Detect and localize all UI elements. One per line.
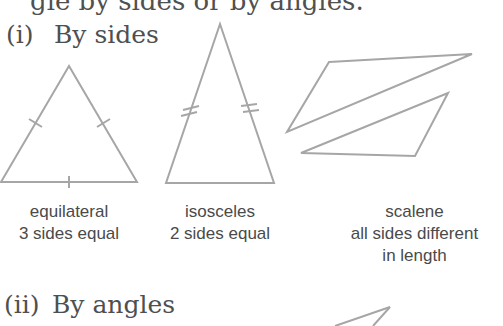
partial-triangle-by-angles — [335, 307, 390, 326]
scalene-triangles — [287, 54, 472, 156]
section-number: (ii) — [4, 290, 52, 319]
caption-description: 2 sides equal — [154, 223, 286, 245]
caption-description: all sides different — [326, 223, 503, 245]
caption-isosceles: isosceles 2 sides equal — [154, 201, 286, 245]
section-title: By angles — [52, 290, 175, 319]
isosceles-triangle — [166, 24, 274, 183]
caption-name: isosceles — [154, 201, 286, 223]
caption-equilateral: equilateral 3 sides equal — [0, 201, 138, 245]
caption-name: scalene — [326, 201, 503, 223]
caption-description: 3 sides equal — [0, 223, 138, 245]
equilateral-triangle — [1, 66, 137, 188]
triangle-classification-page: gle by sides or by angles. (i)By sides — [0, 0, 503, 326]
caption-name: equilateral — [0, 201, 138, 223]
caption-description-line2: in length — [326, 245, 503, 267]
caption-scalene: scalene all sides different in length — [326, 201, 503, 267]
section-heading-by-angles: (ii)By angles — [4, 290, 175, 319]
triangle-diagrams — [0, 0, 503, 326]
